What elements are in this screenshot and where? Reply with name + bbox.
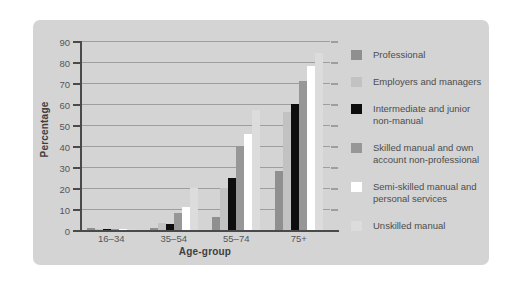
y-axis-tick-label: 20 <box>43 183 70 194</box>
gridline <box>81 83 330 84</box>
y-axis-line <box>80 41 82 231</box>
y-axis-tick <box>73 230 80 232</box>
y-axis-tick <box>73 146 80 148</box>
bar-semi-skilled-manual-55–74 <box>244 134 252 230</box>
bar-intermediate-and-75+ <box>291 104 299 230</box>
legend-label: Intermediate and junior non-manual <box>373 103 483 127</box>
bar-intermediate-and-55–74 <box>228 178 236 231</box>
bar-unskilled-manual-55–74 <box>252 110 260 230</box>
right-axis-tick <box>331 83 338 85</box>
chart-panel: Percentage 0102030405060708090 16–3435–5… <box>33 20 489 265</box>
legend-label: Skilled manual and own account non-profe… <box>373 142 483 166</box>
y-axis-tick <box>73 125 80 127</box>
y-axis-tick <box>73 41 80 43</box>
right-axis-tick <box>331 209 338 211</box>
y-axis-tick-label: 90 <box>43 36 70 47</box>
bar-skilled-manual-55–74 <box>236 146 244 230</box>
right-axis-tick <box>331 188 338 190</box>
right-axis-tick <box>331 167 338 169</box>
legend-item: Semi-skilled manual and personal service… <box>351 181 483 205</box>
legend: ProfessionalEmployers and managersInterm… <box>351 49 483 232</box>
y-axis-tick-label: 70 <box>43 78 70 89</box>
y-axis-tick-label: 10 <box>43 204 70 215</box>
y-axis-tick-label: 40 <box>43 141 70 152</box>
right-axis-tick <box>331 146 338 148</box>
bar-employers-and-75+ <box>283 112 291 230</box>
x-axis-category-label: 75+ <box>269 233 329 244</box>
y-axis-tick <box>73 167 80 169</box>
legend-swatch <box>351 50 362 60</box>
legend-swatch <box>351 143 362 153</box>
legend-label: Employers and managers <box>373 76 481 88</box>
legend-swatch <box>351 77 362 87</box>
page: Percentage 0102030405060708090 16–3435–5… <box>0 0 505 294</box>
legend-swatch <box>351 104 362 114</box>
x-axis-category-label: 16–34 <box>81 233 141 244</box>
legend-swatch <box>351 182 362 192</box>
bar-semi-skilled-manual-75+ <box>307 66 315 230</box>
x-axis-category-label: 55–74 <box>206 233 266 244</box>
legend-label: Unskilled manual <box>373 220 445 232</box>
y-axis-tick <box>73 104 80 106</box>
y-axis-tick-label: 30 <box>43 162 70 173</box>
bar-unskilled-manual-75+ <box>315 53 323 230</box>
right-axis-tick <box>331 104 338 106</box>
legend-swatch <box>351 221 362 231</box>
right-axis-tick <box>331 41 338 43</box>
legend-item: Intermediate and junior non-manual <box>351 103 483 127</box>
y-axis-tick-label: 80 <box>43 57 70 68</box>
bar-professional-55–74 <box>212 217 220 230</box>
bar-skilled-manual-75+ <box>299 81 307 230</box>
bar-professional-75+ <box>275 171 283 230</box>
y-axis-tick <box>73 62 80 64</box>
x-axis-category-label: 35–54 <box>144 233 204 244</box>
legend-label: Professional <box>373 49 425 61</box>
gridline <box>81 62 330 63</box>
legend-item: Professional <box>351 49 483 61</box>
gridline <box>81 41 330 42</box>
y-axis-tick-label: 0 <box>43 225 70 236</box>
right-axis-tick <box>331 125 338 127</box>
legend-item: Skilled manual and own account non-profe… <box>351 142 483 166</box>
legend-label: Semi-skilled manual and personal service… <box>373 181 483 205</box>
bar-employers-and-55–74 <box>220 188 228 230</box>
legend-item: Employers and managers <box>351 76 483 88</box>
bar-semi-skilled-manual-35–54 <box>182 207 190 230</box>
y-axis-tick-label: 50 <box>43 120 70 131</box>
bar-unskilled-manual-35–54 <box>190 188 198 230</box>
y-axis-tick-label: 60 <box>43 99 70 110</box>
bar-skilled-manual-35–54 <box>174 213 182 230</box>
right-axis-tick <box>331 62 338 64</box>
y-axis-tick <box>73 209 80 211</box>
x-axis-line <box>77 230 339 232</box>
y-axis-tick <box>73 188 80 190</box>
x-axis-title: Age-group <box>145 246 265 257</box>
legend-item: Unskilled manual <box>351 220 483 232</box>
y-axis-tick <box>73 83 80 85</box>
